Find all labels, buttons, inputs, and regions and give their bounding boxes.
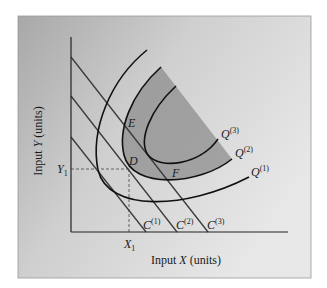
x-axis-label: Input X (units): [151, 253, 221, 267]
isoquant-diagram: Input X (units) Input Y (units) X1 Y1 E …: [0, 0, 327, 288]
point-label-f: F: [171, 166, 180, 180]
y-axis-label: Input Y (units): [31, 106, 45, 175]
point-label-e: E: [127, 116, 136, 130]
point-label-d: D: [128, 154, 138, 168]
